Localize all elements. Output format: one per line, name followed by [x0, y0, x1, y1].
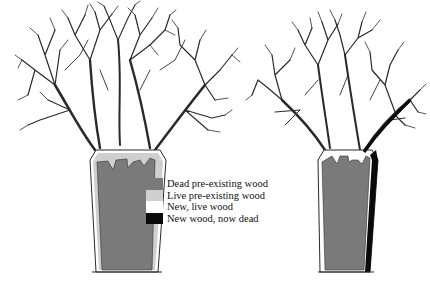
legend-item-dead-pre-existing: Dead pre-existing wood	[146, 178, 268, 190]
swatch-live-pre-existing	[146, 190, 163, 202]
legend-item-new-dead: New wood, now dead	[146, 213, 268, 225]
right-tree	[246, 10, 426, 272]
tree-diagram	[0, 0, 430, 284]
swatch-dead-pre-existing	[146, 178, 163, 190]
right-tree-crown	[246, 10, 426, 150]
legend: Dead pre-existing wood Live pre-existing…	[146, 178, 268, 224]
left-tree	[15, 1, 240, 272]
swatch-new-dead	[146, 213, 163, 225]
legend-item-new-live: New, live wood	[146, 201, 268, 213]
right-tree-new-dead-limb	[364, 100, 410, 152]
left-tree-crown	[15, 1, 240, 150]
legend-label: New, live wood	[167, 201, 233, 212]
legend-label: Dead pre-existing wood	[167, 178, 268, 189]
swatch-new-live	[146, 201, 163, 213]
legend-label: New wood, now dead	[167, 213, 259, 224]
legend-item-live-pre-existing: Live pre-existing wood	[146, 190, 268, 202]
right-tree-dead-core	[322, 156, 370, 270]
legend-label: Live pre-existing wood	[167, 190, 265, 201]
